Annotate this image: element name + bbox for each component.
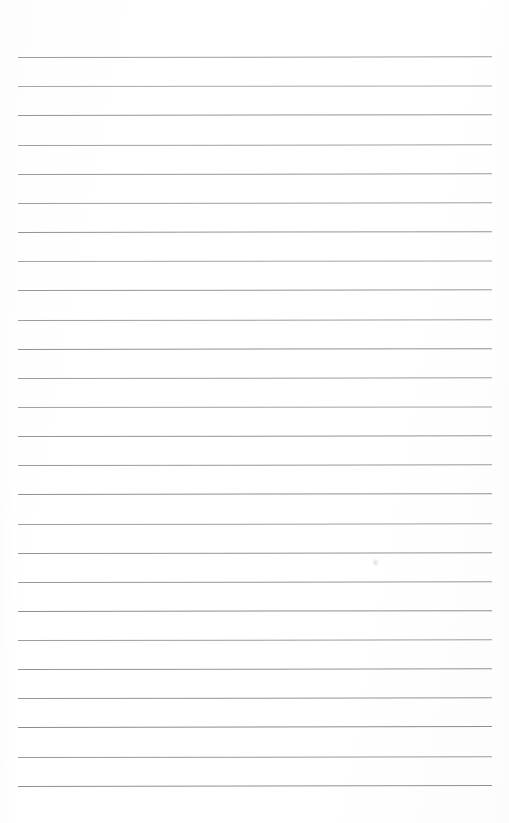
ruled-line: [18, 610, 492, 612]
ruled-line: [18, 348, 492, 350]
ruled-line: [18, 377, 492, 379]
ruled-line: [18, 435, 492, 437]
ruled-line: [18, 726, 492, 728]
ruled-line: [18, 406, 492, 408]
ruled-line: [18, 289, 492, 291]
ruled-line: [18, 202, 492, 204]
ruled-line: [18, 493, 492, 495]
ruled-line: [18, 114, 492, 116]
ruled-line: [18, 581, 492, 583]
ruled-line: [18, 56, 492, 58]
ruled-line: [18, 231, 492, 233]
ruled-line: [18, 464, 492, 466]
ruled-line: [18, 552, 492, 554]
ruled-line: [18, 85, 492, 87]
ruled-line: [18, 319, 492, 321]
ruled-line: [18, 260, 492, 262]
ruled-line: [18, 785, 492, 787]
ruled-lines-layer: [0, 0, 509, 823]
ruled-line: [18, 639, 492, 641]
ruled-line: [18, 697, 492, 699]
ruled-line: [18, 668, 492, 670]
ruled-line: [18, 756, 492, 758]
ruled-line: [18, 144, 492, 146]
scanned-page: [0, 0, 509, 823]
ruled-line: [18, 523, 492, 525]
ruled-line: [18, 173, 492, 175]
